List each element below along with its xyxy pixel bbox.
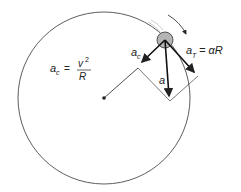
centripetal-acceleration-arrow: [142, 40, 165, 62]
a-vector-label: a: [159, 74, 165, 86]
ac-formula-equals: =: [64, 63, 70, 74]
ac-formula-denominator: R: [79, 71, 86, 82]
ac-formula-subscript: c: [56, 69, 60, 76]
at-formula-rhs: = αR: [199, 44, 223, 56]
ac-formula-exponent: 2: [85, 56, 89, 63]
rotation-direction-arrow: [168, 15, 186, 34]
ac-vector-subscript: c: [137, 53, 141, 60]
construction-line: [170, 76, 198, 101]
ac-formula-numerator: v: [78, 58, 84, 69]
at-subscript: T: [192, 52, 197, 59]
motion-trail: [148, 22, 160, 32]
construction-line: [138, 68, 170, 101]
circular-motion-diagram: a c = v 2 R a c a a T = αR: [0, 0, 241, 192]
net-acceleration-arrow: [165, 40, 169, 96]
radius-line: [104, 68, 138, 98]
